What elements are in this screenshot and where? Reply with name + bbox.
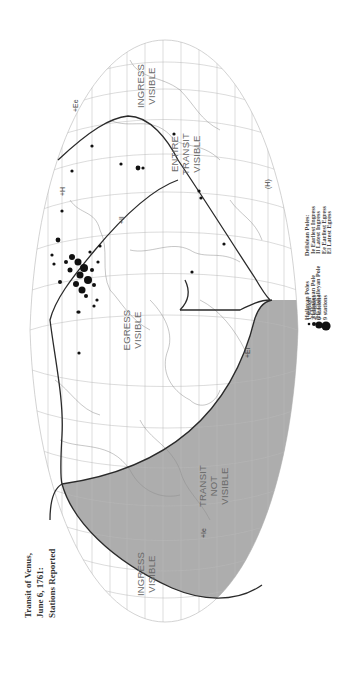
legend-dot-1 bbox=[308, 323, 311, 326]
transit-map: +Ee +H +Il +El +Ie (H) INGRESS VISIBLE E… bbox=[0, 0, 360, 675]
svg-text:EGRESS: EGRESS bbox=[121, 310, 132, 351]
legend-delislean: Delislean Poles: Ie Earliest Ingress Il … bbox=[303, 205, 332, 256]
svg-text:Stations Reported: Stations Reported bbox=[47, 549, 57, 618]
svg-text:INGRESS: INGRESS bbox=[135, 552, 146, 596]
svg-text:VISIBLE: VISIBLE bbox=[146, 67, 157, 104]
svg-text:9 stations: 9 stations bbox=[321, 294, 328, 320]
svg-text:VISIBLE: VISIBLE bbox=[219, 467, 230, 504]
label-egress-visible: EGRESS VISIBLE bbox=[121, 310, 143, 351]
legend-halleyan: Halleyan Poles H Halleyan Pole (H) Cisha… bbox=[303, 265, 322, 320]
label-ingress-visible-left: INGRESS VISIBLE bbox=[135, 552, 157, 596]
pole-earliest-egress: +Ee bbox=[72, 99, 79, 112]
svg-text:TRANSIT: TRANSIT bbox=[180, 133, 191, 175]
label-ingress-visible-right: INGRESS VISIBLE bbox=[135, 64, 157, 108]
svg-text:NOT: NOT bbox=[208, 476, 219, 497]
pole-earliest-ingress: +Ie bbox=[200, 528, 207, 538]
svg-text:VISIBLE: VISIBLE bbox=[146, 555, 157, 592]
map-title: Transit of Venus, June 6, 1761: Stations… bbox=[23, 549, 57, 618]
svg-text:(H) Cishalleyan Pole: (H) Cishalleyan Pole bbox=[314, 265, 322, 320]
legend-dot-9 bbox=[321, 321, 330, 330]
svg-text:El Latest Egress: El Latest Egress bbox=[325, 211, 332, 254]
svg-text:INGRESS: INGRESS bbox=[135, 64, 146, 108]
svg-text:ENTIRE: ENTIRE bbox=[169, 136, 180, 172]
pole-halleyan: +H bbox=[59, 187, 66, 196]
svg-text:June 6, 1761:: June 6, 1761: bbox=[35, 567, 45, 618]
label-entire-transit-visible: ENTIRE TRANSIT VISIBLE bbox=[169, 133, 202, 175]
legend-dot-2 bbox=[312, 322, 316, 326]
svg-text:TRANSIT: TRANSIT bbox=[197, 465, 208, 507]
svg-text:Transit of Venus,: Transit of Venus, bbox=[23, 553, 33, 618]
map-svg: +Ee +H +Il +El +Ie (H) INGRESS VISIBLE E… bbox=[0, 0, 360, 675]
svg-text:VISIBLE: VISIBLE bbox=[132, 311, 143, 348]
pole-latest-egress: +El bbox=[244, 347, 251, 358]
pole-cishalleyan: (H) bbox=[264, 179, 272, 189]
pole-latest-ingress: +Il bbox=[118, 216, 125, 224]
svg-text:VISIBLE: VISIBLE bbox=[191, 135, 202, 172]
